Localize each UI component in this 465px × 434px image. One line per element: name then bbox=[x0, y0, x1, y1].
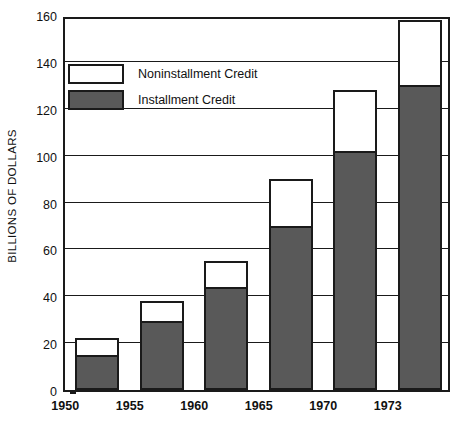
bar-segment-noninstallment[interactable] bbox=[398, 20, 442, 88]
y-axis-tick-label: 120 bbox=[17, 104, 57, 118]
y-axis-tick-label: 100 bbox=[17, 151, 57, 165]
bar-group[interactable] bbox=[75, 338, 119, 390]
bar-chart: BILLIONS OF DOLLARS 02040608010012014016… bbox=[0, 0, 465, 434]
y-axis-tick-labels: 020406080100120140160 bbox=[13, 17, 57, 392]
bar-segment-installment[interactable] bbox=[75, 355, 119, 390]
bar-group[interactable] bbox=[333, 90, 377, 390]
y-axis-tick-label: 0 bbox=[17, 385, 57, 399]
gridline bbox=[65, 342, 448, 343]
bar-group[interactable] bbox=[140, 301, 184, 390]
y-axis-tick-label: 20 bbox=[17, 338, 57, 352]
x-axis-tick-label: 1950 bbox=[35, 399, 95, 413]
legend: Noninstallment CreditInstallment Credit bbox=[68, 62, 288, 114]
gridline bbox=[65, 155, 448, 156]
y-axis-tick-label: 60 bbox=[17, 244, 57, 258]
bar-group[interactable] bbox=[204, 261, 248, 390]
legend-swatch-installment bbox=[68, 90, 124, 110]
bar-segment-installment[interactable] bbox=[269, 226, 313, 390]
bar-segment-installment[interactable] bbox=[204, 287, 248, 390]
legend-item[interactable]: Installment Credit bbox=[68, 88, 288, 112]
y-axis-tick-label: 140 bbox=[17, 57, 57, 71]
bar-segment-noninstallment[interactable] bbox=[75, 338, 119, 356]
gridline bbox=[65, 248, 448, 249]
x-axis-tick-label: 1965 bbox=[229, 399, 289, 413]
y-axis-tick-label: 160 bbox=[17, 10, 57, 24]
legend-item[interactable]: Noninstallment Credit bbox=[68, 62, 288, 86]
x-axis-tick-label: 1973 bbox=[358, 399, 418, 413]
x-axis-tick-label: 1970 bbox=[293, 399, 353, 413]
bar-group[interactable] bbox=[269, 179, 313, 390]
x-axis-tick-label: 1960 bbox=[164, 399, 224, 413]
legend-swatch-noninstallment bbox=[68, 64, 124, 84]
x-axis-tick-label: 1955 bbox=[100, 399, 160, 413]
y-axis-tick-label: 40 bbox=[17, 291, 57, 305]
y-axis-tick-mark bbox=[70, 392, 76, 394]
gridline bbox=[65, 295, 448, 296]
bar-segment-installment[interactable] bbox=[398, 85, 442, 390]
legend-label: Installment Credit bbox=[138, 93, 235, 107]
y-axis-tick-label: 80 bbox=[17, 198, 57, 212]
legend-label: Noninstallment Credit bbox=[138, 67, 258, 81]
gridline bbox=[65, 202, 448, 203]
bar-segment-noninstallment[interactable] bbox=[204, 261, 248, 289]
bar-segment-noninstallment[interactable] bbox=[269, 179, 313, 228]
bar-segment-installment[interactable] bbox=[140, 321, 184, 390]
bar-group[interactable] bbox=[398, 20, 442, 390]
bar-segment-installment[interactable] bbox=[333, 151, 377, 390]
bar-segment-noninstallment[interactable] bbox=[140, 301, 184, 323]
bar-segment-noninstallment[interactable] bbox=[333, 90, 377, 153]
